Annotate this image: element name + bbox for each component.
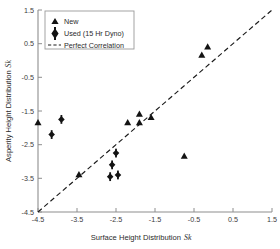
legend-label-new: New [64,17,79,26]
data-point [204,43,211,49]
data-point [107,172,114,181]
x-tick-label: 0.5 [228,215,238,224]
data-point [35,119,42,125]
data-point [113,149,120,158]
x-tick-labels: -4.5 -3.5 -2.5 -1.5 -0.5 0.5 1.5 [32,215,277,224]
data-point [124,119,131,125]
y-tick-label: 0.5 [24,39,34,48]
y-axis-title: Asperity Height DistributionSk [4,59,13,161]
data-point [109,160,116,169]
x-axis-title-text: Surface Height Distribution [91,233,181,242]
y-tick-labels: 1.5 0.5 -0.5 -1.5 -2.5 -3.5 -4.5 [22,6,34,217]
legend-label-used: Used (15 Hr Dyno) [64,29,124,38]
x-tick-label: -1.5 [149,215,161,224]
svg-text:Asperity Height DistributionSk: Asperity Height DistributionSk [4,59,13,161]
x-axis-ticks [38,208,272,212]
data-point [48,130,55,139]
data-point [181,153,188,159]
data-point [115,171,122,180]
y-tick-label: -4.5 [22,208,34,217]
data-point [136,119,143,125]
y-axis-ticks [38,10,42,212]
scatter-chart: -4.5 -3.5 -2.5 -1.5 -0.5 0.5 1.5 1.5 0.5… [0,0,280,249]
y-axis-title-text: Asperity Height Distribution [4,70,13,162]
y-tick-label: -0.5 [22,73,34,82]
legend-label-perfect-correlation: Perfect Correlation [64,41,124,50]
y-tick-label: 1.5 [24,6,34,15]
x-tick-label: -0.5 [188,215,200,224]
y-tick-label: -1.5 [22,107,34,116]
data-point [58,115,65,124]
y-tick-label: -2.5 [22,140,34,149]
data-point [148,114,155,120]
legend: New Used (15 Hr Dyno) Perfect Correlatio… [45,11,134,50]
x-tick-label: -2.5 [110,215,122,224]
x-axis-title: Surface Height DistributionSk [91,233,192,242]
data-point [198,52,205,58]
data-point [136,111,143,117]
x-tick-label: 1.5 [267,215,277,224]
y-tick-label: -3.5 [22,174,34,183]
y-axis-title-symbol: Sk [4,59,13,67]
x-tick-label: -3.5 [71,215,83,224]
chart-canvas: -4.5 -3.5 -2.5 -1.5 -0.5 0.5 1.5 1.5 0.5… [0,0,280,249]
svg-text:Surface Height DistributionSk: Surface Height DistributionSk [91,233,192,242]
series-new-markers [35,43,212,177]
x-axis-title-symbol: Sk [184,233,192,242]
